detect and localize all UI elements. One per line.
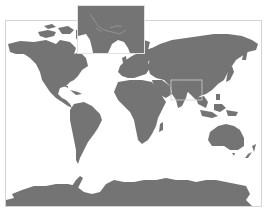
philippines [216,94,220,100]
world-map [0,0,267,213]
south-asia-inset [78,6,145,54]
